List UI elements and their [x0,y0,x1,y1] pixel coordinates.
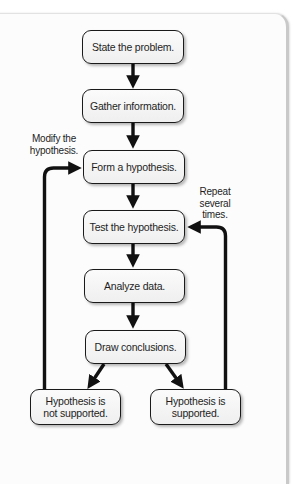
step-label: Test the hypothesis. [90,221,179,234]
step-label: Draw conclusions. [95,341,177,354]
note-repeat-several-times: Repeat several times. [193,186,237,221]
outcome-label-line1: Hypothesis is [46,395,106,408]
step-draw-conclusions: Draw conclusions. [85,330,186,364]
arrow-draw-to-not-supported [90,364,104,385]
step-label: Analyze data. [104,280,165,293]
outcome-label-line2: supported. [172,407,220,420]
note-line1: Modify the [26,133,82,145]
step-label: Form a hypothesis. [91,161,177,174]
step-analyze-data: Analyze data. [84,269,185,303]
note-modify-hypothesis: Modify the hypothesis. [26,133,82,156]
note-line1: Repeat [193,186,237,198]
step-test-hypothesis: Test the hypothesis. [83,210,185,244]
note-line2: hypothesis. [26,145,82,157]
outcome-supported: Hypothesis is supported. [150,389,241,425]
step-form-hypothesis: Form a hypothesis. [83,150,185,184]
note-line3: times. [193,209,237,221]
step-gather-information: Gather information. [82,89,184,123]
step-state-problem: State the problem. [82,30,184,64]
step-label: Gather information. [90,100,176,113]
outcome-not-supported: Hypothesis is not supported. [30,389,121,425]
arrow-draw-to-supported [166,364,181,385]
loop-arrow-repeat [192,227,226,389]
loop-arrow-modify [45,168,78,389]
outcome-label-line1: Hypothesis is [166,395,226,408]
step-label: State the problem. [92,41,174,54]
note-line2: several [193,198,237,210]
outcome-label-line2: not supported. [43,407,107,420]
